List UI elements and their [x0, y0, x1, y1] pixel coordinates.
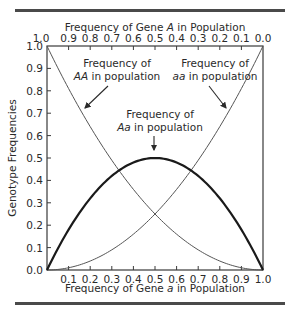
origin-label: 0.0: [26, 264, 43, 276]
annotations: Frequency ofAA in populationFrequency of…: [73, 57, 258, 150]
x-tick-label: 0.9: [233, 273, 250, 285]
x-tick-label: 0.5: [147, 273, 164, 285]
x-tick-label: 0.1: [60, 273, 77, 285]
top-tick-label: 0.6: [125, 32, 142, 44]
top-tick-label: 0.3: [190, 32, 207, 44]
annotation-AA: Frequency ofAA in population: [73, 57, 161, 82]
arrow-AA: [85, 86, 108, 108]
y-tick-label: 0.2: [26, 219, 43, 231]
svg-text:aa in population: aa in population: [173, 70, 258, 82]
svg-text:Frequency of: Frequency of: [181, 57, 249, 69]
top-tick-label: 0.8: [82, 32, 99, 44]
x-tick-label: 0.8: [211, 273, 228, 285]
annotation-Aa: Frequency ofAa in population: [116, 108, 203, 133]
genotype-frequency-chart: Frequency of Gene A in Population Freque…: [0, 0, 285, 316]
x-tick-label: 0.3: [103, 273, 120, 285]
top-tick-label: 0.2: [211, 32, 228, 44]
svg-text:Frequency of: Frequency of: [83, 57, 151, 69]
x-tick-label: 0.4: [125, 273, 142, 285]
top-tick-label: 0.4: [168, 32, 185, 44]
y-tick-label: 0.1: [26, 242, 43, 254]
y-tick-label: 0.5: [26, 152, 43, 164]
svg-text:Aa in population: Aa in population: [116, 121, 203, 133]
annotation-aa: Frequency ofaa in population: [173, 57, 258, 82]
top-tick-label: 0.5: [147, 32, 164, 44]
y-tick-label: 0.7: [26, 107, 43, 119]
y-tick-label: 0.9: [26, 62, 43, 74]
y-tick-label: 0.4: [26, 174, 43, 186]
y-axis-title: Genotype Frequencies: [6, 99, 18, 216]
x-tick-label: 0.7: [190, 273, 207, 285]
x-tick-label: 1.0: [255, 273, 272, 285]
y-tick-label: 0.6: [26, 130, 43, 142]
top-tick-label: 0.0: [255, 32, 272, 44]
top-tick-label: 0.1: [233, 32, 250, 44]
arrow-aa: [209, 86, 226, 108]
svg-text:Frequency of: Frequency of: [126, 108, 194, 120]
svg-text:AA in population: AA in population: [73, 70, 161, 82]
top-tick-label: 0.9: [60, 32, 77, 44]
y-tick-label: 0.8: [26, 85, 43, 97]
top-tick-label: 0.7: [103, 32, 120, 44]
y-tick-label: 0.3: [26, 197, 43, 209]
x-tick-label: 0.2: [82, 273, 99, 285]
x-tick-label: 0.6: [168, 273, 185, 285]
top-tick-label: 1.0: [33, 32, 50, 44]
